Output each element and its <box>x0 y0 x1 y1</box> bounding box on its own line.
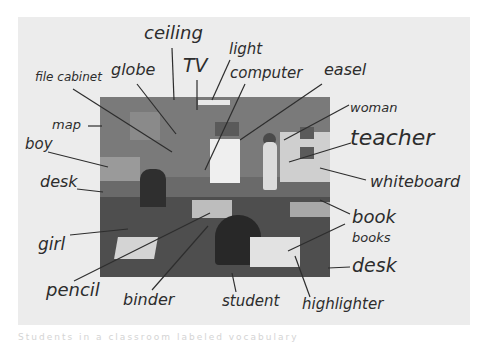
leader-line-highlighter <box>295 256 310 297</box>
leader-line-girl <box>70 229 128 235</box>
label-teacher: teacher <box>350 127 434 149</box>
leader-line-easel <box>240 84 322 140</box>
leader-line-desk-left <box>77 189 103 192</box>
leader-line-boy <box>48 152 108 167</box>
label-boy: boy <box>25 137 53 152</box>
leader-line-file-cabinet <box>73 89 172 152</box>
label-student: student <box>222 294 279 309</box>
caption: Students in a classroom labeled vocabula… <box>18 332 299 342</box>
label-pencil: pencil <box>46 281 100 299</box>
label-whiteboard: whiteboard <box>370 174 460 190</box>
leader-line-student <box>232 273 236 292</box>
label-desk-right: desk <box>352 256 397 275</box>
leader-line-desk-right <box>328 267 350 268</box>
leader-line-binder <box>152 226 208 290</box>
leader-line-ceiling <box>172 48 174 100</box>
leader-line-computer <box>205 84 245 170</box>
label-file-cabinet: file cabinet <box>35 71 102 83</box>
label-light: light <box>229 42 262 57</box>
label-book: book <box>352 208 396 226</box>
label-computer: computer <box>230 66 302 81</box>
leader-line-books <box>288 224 345 251</box>
label-globe: globe <box>111 62 155 78</box>
label-girl: girl <box>38 236 65 253</box>
leader-line-book <box>320 200 350 214</box>
leader-line-light <box>212 60 230 100</box>
label-books: books <box>352 231 390 244</box>
label-map: map <box>52 118 81 131</box>
label-desk-left: desk <box>40 174 78 190</box>
label-highlighter: highlighter <box>302 297 383 312</box>
leader-line-teacher <box>289 143 351 162</box>
label-ceiling: ceiling <box>144 24 203 42</box>
label-woman: woman <box>350 101 397 114</box>
label-binder: binder <box>123 292 174 308</box>
label-easel: easel <box>324 62 366 78</box>
leader-line-globe <box>137 84 176 134</box>
leader-line-woman <box>284 105 349 140</box>
label-tv: TV <box>183 56 208 75</box>
leader-line-whiteboard <box>320 168 366 180</box>
